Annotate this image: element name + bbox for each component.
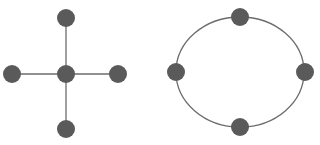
star-node-center [57,65,75,83]
ring-node-right [296,63,314,81]
ring-topology [167,8,314,136]
star-node-right [109,65,127,83]
ring-edge [176,17,304,127]
star-node-left [3,65,21,83]
topology-diagram-canvas [0,0,320,145]
star-node-top [57,9,75,27]
ring-node-top [231,8,249,26]
ring-node-left [167,63,185,81]
star-node-bottom [57,120,75,138]
ring-node-bottom [231,118,249,136]
topology-diagrams [0,0,320,145]
star-topology [3,9,127,138]
